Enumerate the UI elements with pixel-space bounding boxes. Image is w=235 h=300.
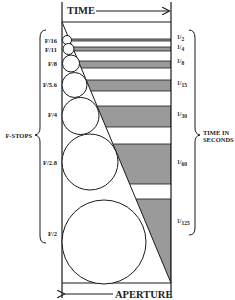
fstop-labels: F/16 F/11 F/8 F/5.6 F/4 F/2.8 F/2 (43, 37, 58, 237)
fstops-label: F-STOPS (5, 132, 32, 139)
circle-f16 (63, 36, 72, 45)
time-label-row: 1/30 (177, 111, 187, 119)
circle-f8 (63, 55, 80, 72)
time-in-seconds-label-2: SECONDS (203, 136, 234, 143)
right-brace (189, 30, 200, 235)
time-label-row: 1/8 (177, 58, 184, 66)
time-label-row: 1/60 (177, 159, 187, 167)
aperture-time-diagram: TIME APERTURE F/16 F/11 F/8 F/5.6 F/4 F/… (0, 0, 235, 300)
bar-1-4 (62, 47, 171, 51)
time-label: TIME (67, 5, 95, 16)
time-in-seconds-label-1: TIME IN (203, 129, 229, 136)
fstop-label: F/11 (45, 46, 57, 53)
circle-f2-8 (62, 134, 118, 190)
time-label-row: 1/4 (177, 44, 184, 52)
fstop-label: F/8 (48, 60, 58, 67)
time-label-row: 1/15 (177, 80, 187, 88)
time-label-row: 1/2 (177, 34, 184, 42)
fstop-label: F/2.8 (43, 159, 58, 166)
circle-f2 (62, 200, 146, 284)
fstop-label: F/4 (48, 111, 58, 118)
time-label-row: 1/125 (177, 218, 190, 226)
time-labels: 1/2 1/4 1/8 1/15 1/30 1/60 1/125 (177, 34, 190, 226)
fstop-label: F/5.6 (43, 81, 58, 88)
circle-f4 (62, 98, 99, 135)
fstop-label: F/16 (45, 37, 58, 44)
aperture-label: APERTURE (115, 289, 172, 300)
circle-f11 (63, 44, 74, 55)
circle-f5-6 (62, 73, 87, 98)
left-brace (35, 30, 46, 243)
bar-1-2 (62, 39, 171, 41)
fstop-label: F/2 (48, 230, 57, 237)
